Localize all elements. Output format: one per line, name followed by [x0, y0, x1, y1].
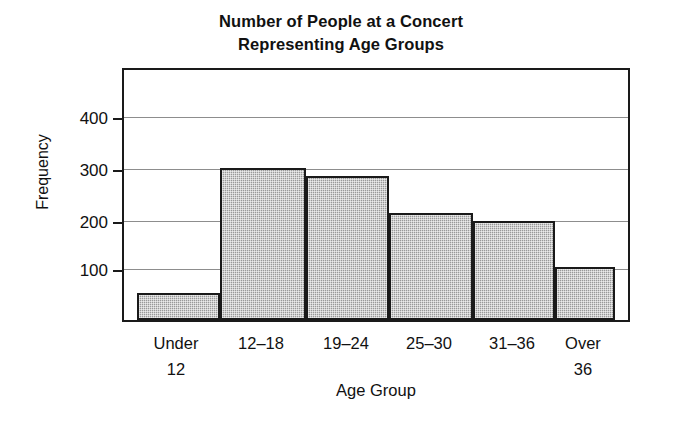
x-tick-label-over-36-line-1: Over: [565, 334, 601, 352]
bar-19-24[interactable]: [306, 176, 389, 320]
x-tick-label-under-12-line-2: 12: [126, 356, 226, 382]
y-tick-label-group: 400 300 200 100: [40, 0, 108, 433]
bar-group: [124, 70, 628, 320]
x-tick-label-19-24-line-1: 19–24: [323, 334, 369, 352]
bar-under-12[interactable]: [137, 293, 220, 320]
bar-31-36[interactable]: [473, 221, 555, 320]
x-tick-label-25-30-line-1: 25–30: [406, 334, 452, 352]
y-tick-mark-400: [113, 118, 122, 120]
y-tick-label-200: 200: [46, 214, 108, 231]
x-tick-label-12-18-line-1: 12–18: [238, 334, 284, 352]
plot-area: [122, 68, 630, 322]
bar-12-18[interactable]: [220, 168, 306, 320]
x-tick-label-over-36: Over 36: [533, 330, 633, 382]
y-tick-mark-300: [113, 170, 122, 172]
y-tick-label-300: 300: [46, 162, 108, 179]
y-tick-label-100: 100: [46, 262, 108, 279]
x-tick-label-under-12-line-1: Under: [154, 334, 199, 352]
x-tick-label-31-36-line-1: 31–36: [489, 334, 535, 352]
y-tick-mark-200: [113, 222, 122, 224]
histogram-figure: Number of People at a Concert Representi…: [0, 0, 682, 433]
bar-25-30[interactable]: [389, 213, 473, 320]
x-axis-title: Age Group: [122, 381, 630, 400]
x-tick-label-over-36-line-2: 36: [533, 356, 633, 382]
y-tick-mark-100: [113, 270, 122, 272]
bar-over-36[interactable]: [555, 267, 615, 320]
y-tick-label-400: 400: [46, 110, 108, 127]
